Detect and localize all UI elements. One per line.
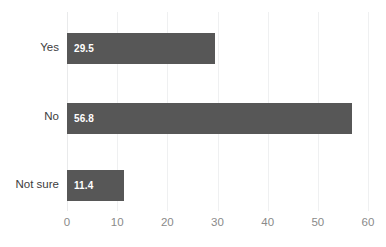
bar-value-label: 11.4 (74, 170, 93, 201)
bar-chart: 29.556.811.4 YesNoNot sure 0102030405060 (0, 0, 386, 247)
x-tick-0: 0 (47, 216, 87, 228)
x-tick-20: 20 (147, 216, 187, 228)
bar-row: 11.4 (67, 170, 124, 201)
category-label-no: No (0, 110, 59, 122)
bar-row: 29.5 (67, 33, 215, 64)
category-label-yes: Yes (0, 41, 59, 53)
x-tick-10: 10 (97, 216, 137, 228)
bar-row: 56.8 (67, 103, 352, 134)
x-tick-40: 40 (248, 216, 288, 228)
x-tick-60: 60 (348, 216, 386, 228)
category-label-not-sure: Not sure (0, 178, 59, 190)
bar-no[interactable] (67, 103, 352, 134)
bars-layer: 29.556.811.4 (67, 12, 368, 211)
x-tick-50: 50 (298, 216, 338, 228)
x-tick-30: 30 (198, 216, 238, 228)
plot-area: 29.556.811.4 (67, 12, 368, 211)
bar-value-label: 29.5 (74, 33, 94, 64)
gridline-60 (368, 12, 369, 211)
bar-value-label: 56.8 (74, 103, 94, 134)
